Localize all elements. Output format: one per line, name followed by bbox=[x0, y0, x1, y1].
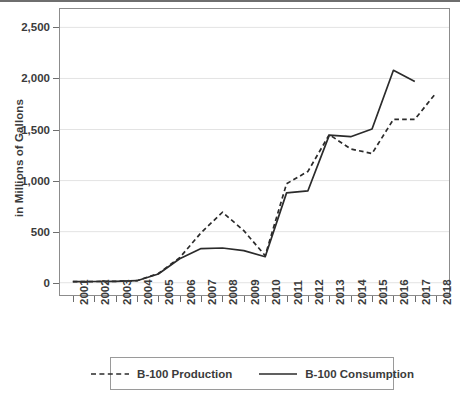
x-tick-mark bbox=[265, 296, 266, 302]
legend-swatch-solid bbox=[258, 369, 298, 379]
x-tick-mark bbox=[393, 296, 394, 302]
y-tick-label: 1,500 bbox=[0, 124, 50, 136]
y-axis-title: in Millions of Gallons bbox=[13, 43, 25, 273]
chart-figure: in Millions of Gallons 05001,0001,5002,0… bbox=[0, 0, 460, 400]
x-tick-mark bbox=[158, 296, 159, 302]
x-tick-mark bbox=[116, 296, 117, 302]
x-tick-mark bbox=[351, 296, 352, 302]
x-tick-mark bbox=[137, 296, 138, 302]
legend-item-consumption: B-100 Consumption bbox=[258, 368, 414, 380]
x-tick-mark bbox=[201, 296, 202, 302]
y-tick-label: 500 bbox=[0, 226, 50, 238]
legend-item-production: B-100 Production bbox=[90, 368, 232, 380]
x-tick-mark bbox=[372, 296, 373, 302]
x-tick-mark bbox=[329, 296, 330, 302]
series-line-consumption bbox=[73, 70, 415, 281]
chart-legend: B-100 Production B-100 Consumption bbox=[110, 357, 394, 390]
y-tick-label: 2,000 bbox=[0, 72, 50, 84]
x-tick-mark bbox=[94, 296, 95, 302]
plot-area bbox=[59, 8, 450, 296]
x-tick-mark bbox=[436, 296, 437, 302]
legend-swatch-dashed bbox=[90, 369, 130, 379]
x-tick-mark bbox=[287, 296, 288, 302]
x-tick-mark bbox=[180, 296, 181, 302]
data-series-layer bbox=[73, 70, 436, 281]
legend-label-production: B-100 Production bbox=[137, 368, 232, 380]
x-tick-mark bbox=[308, 296, 309, 302]
x-tick-mark bbox=[222, 296, 223, 302]
top-rule-divider bbox=[0, 0, 460, 2]
chart-plot-svg bbox=[60, 9, 449, 295]
x-tick-mark bbox=[415, 296, 416, 302]
y-tick-label: 0 bbox=[0, 277, 50, 289]
legend-label-consumption: B-100 Consumption bbox=[305, 368, 414, 380]
y-tick-label: 2,500 bbox=[0, 21, 50, 33]
y-tick-label: 1,000 bbox=[0, 175, 50, 187]
x-tick-mark bbox=[73, 296, 74, 302]
x-tick-mark bbox=[244, 296, 245, 302]
